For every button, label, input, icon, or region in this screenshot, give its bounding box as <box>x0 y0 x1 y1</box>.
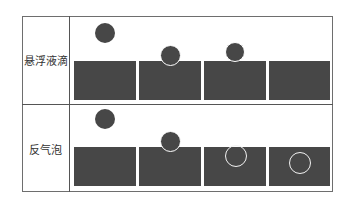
droplet-row1-stage2 <box>160 45 181 66</box>
liquid-pool-row2-stage1 <box>74 147 136 186</box>
row-divider <box>22 104 333 105</box>
antibubble-row2-stage3 <box>225 145 247 167</box>
row-label-floating-droplet: 悬浮液滴 <box>22 52 69 68</box>
droplet-row2-stage2 <box>160 131 181 152</box>
liquid-pool-row1-stage3 <box>204 61 266 100</box>
liquid-pool-row1-stage4 <box>269 61 330 100</box>
row-label-antibubble: 反气泡 <box>22 141 69 157</box>
antibubble-row2-stage4 <box>289 152 311 174</box>
liquid-pool-row2-stage2 <box>139 147 201 186</box>
liquid-pool-row1-stage1 <box>74 61 136 100</box>
droplet-row2-stage1 <box>95 109 115 129</box>
liquid-pool-row1-stage2 <box>139 61 201 100</box>
droplet-row1-stage3 <box>225 42 245 62</box>
droplet-row1-stage1 <box>95 23 115 43</box>
